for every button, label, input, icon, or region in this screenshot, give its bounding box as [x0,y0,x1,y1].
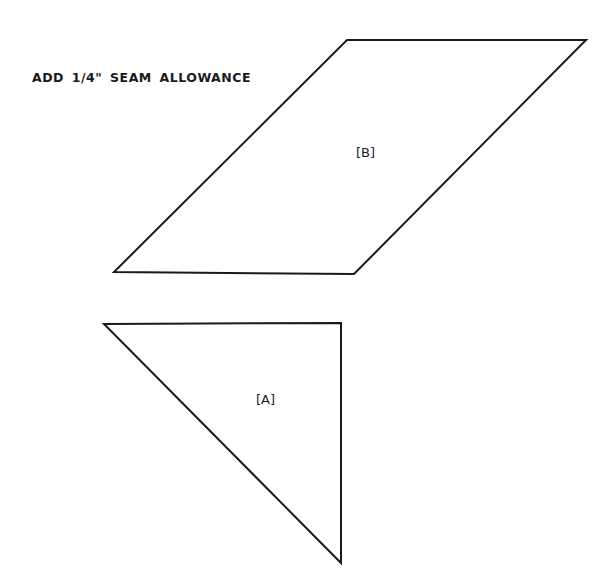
piece-b-label: [B] [356,145,375,160]
piece-a-label: [A] [256,392,275,407]
piece-b-outline [114,40,586,274]
piece-a-outline [104,323,341,563]
pattern-sheet: ADD 1/4" SEAM ALLOWANCE [B] [A] [0,0,612,569]
pattern-pieces [0,0,612,569]
